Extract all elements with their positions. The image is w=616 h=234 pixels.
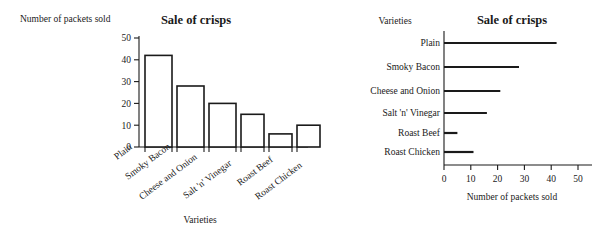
right-chart-xtick-50: 50 — [573, 174, 583, 184]
right-chart: Varieties Sale of crisps 0 10 20 30 40 5… — [370, 13, 592, 202]
right-chart-xtick-20: 20 — [493, 174, 503, 184]
bar-cheese-and-onion — [209, 103, 236, 147]
two-bar-charts-figure: Number of packets sold Sale of crisps 0 … — [0, 0, 616, 234]
left-chart-y-ticks: 0 10 20 30 40 50 — [122, 33, 140, 152]
left-chart: Number of packets sold Sale of crisps 0 … — [20, 13, 320, 225]
bar-roast-beef — [269, 134, 292, 147]
right-chart-catlabel-cheese-and-onion: Cheese and Onion — [370, 86, 440, 96]
right-chart-ylabel: Varieties — [378, 16, 412, 26]
left-chart-ytick-40: 40 — [122, 55, 132, 65]
figure-canvas: Number of packets sold Sale of crisps 0 … — [0, 0, 616, 234]
left-chart-category-labels: Plain Smoky Bacon Cheese and Onion Salt … — [112, 141, 304, 201]
bar-salt-n-vinegar — [241, 114, 264, 147]
left-chart-ytick-30: 30 — [122, 77, 132, 87]
bar-smoky-bacon — [177, 86, 204, 147]
right-chart-catlabel-roast-beef: Roast Beef — [398, 128, 441, 138]
right-chart-xtick-10: 10 — [466, 174, 476, 184]
bar-plain — [145, 55, 172, 147]
right-chart-xtick-0: 0 — [442, 174, 447, 184]
left-chart-title: Sale of crisps — [161, 13, 231, 27]
right-chart-category-labels: Plain Smoky Bacon Cheese and Onion Salt … — [370, 38, 440, 157]
right-chart-catlabel-roast-chicken: Roast Chicken — [384, 147, 440, 157]
right-chart-xlabel: Number of packets sold — [467, 192, 558, 202]
left-chart-ylabel: Number of packets sold — [20, 14, 111, 24]
right-chart-catlabel-smoky-bacon: Smoky Bacon — [386, 62, 440, 72]
left-chart-ytick-50: 50 — [122, 33, 132, 43]
bar-roast-chicken — [297, 125, 320, 147]
left-chart-ytick-20: 20 — [122, 99, 132, 109]
left-chart-xlabel: Varieties — [183, 215, 217, 225]
left-chart-bars — [145, 55, 320, 147]
right-chart-catlabel-salt-n-vinegar: Salt 'n' Vinegar — [382, 108, 440, 118]
right-chart-xtick-30: 30 — [520, 174, 530, 184]
right-chart-catlabel-plain: Plain — [420, 38, 440, 48]
left-chart-ytick-10: 10 — [122, 121, 132, 131]
right-chart-xtick-40: 40 — [546, 174, 556, 184]
right-chart-x-ticks: 0 10 20 30 40 50 — [442, 165, 583, 184]
right-chart-title: Sale of crisps — [477, 13, 547, 27]
right-chart-bars — [444, 43, 557, 152]
